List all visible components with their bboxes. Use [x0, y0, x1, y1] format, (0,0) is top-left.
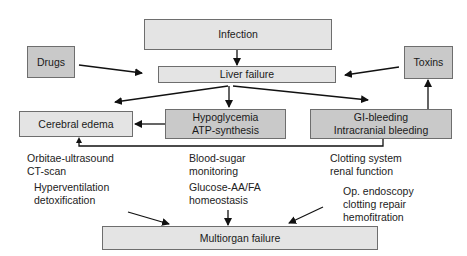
- annotation-line: monitoring: [189, 165, 246, 178]
- annotation-treatment-cerebral: Hyperventilation detoxification: [34, 181, 109, 207]
- annotation-line: Hyperventilation: [34, 181, 109, 194]
- node-hypoglycemia-line2: ATP-synthesis: [192, 124, 259, 137]
- node-hypoglycemia-line1: Hypoglycemia: [193, 111, 259, 124]
- annotation-line: Orbitae-ultrasound: [27, 152, 114, 165]
- node-drugs-label: Drugs: [37, 56, 65, 69]
- annotation-treatment-bleeding: Op. endoscopy clotting repair hemofitrat…: [343, 185, 414, 224]
- annotation-monitoring-cerebral: Orbitae-ultrasound CT-scan: [27, 152, 114, 178]
- annotation-line: homeostasis: [189, 194, 261, 207]
- arrow-liver-gibleeding: [233, 86, 368, 100]
- annotation-line: detoxification: [34, 194, 109, 207]
- node-liver-failure: Liver failure: [158, 66, 336, 83]
- annotation-monitoring-hypoglycemia: Blood-sugar monitoring: [189, 152, 246, 178]
- annotation-monitoring-bleeding: Clotting system renal function: [330, 152, 402, 178]
- annotation-line: Clotting system: [330, 152, 402, 165]
- node-hypoglycemia: Hypoglycemia ATP-synthesis: [165, 109, 286, 139]
- node-toxins-label: Toxins: [414, 56, 444, 69]
- node-toxins: Toxins: [404, 46, 453, 79]
- annotation-treatment-hypoglycemia: Glucose-AA/FA homeostasis: [189, 181, 261, 207]
- arrow-liver-cerebral: [115, 86, 228, 102]
- annotation-line: Op. endoscopy: [343, 185, 414, 198]
- node-gi-bleeding-line2: Intracranial bleeding: [334, 124, 429, 137]
- arrow-drugs-liver: [79, 65, 142, 73]
- node-infection-label: Infection: [218, 28, 258, 41]
- annotation-line: Blood-sugar: [189, 152, 246, 165]
- node-gi-bleeding-line1: GI-bleeding: [354, 111, 408, 124]
- annotation-line: CT-scan: [27, 165, 114, 178]
- arrow-cerebral-treatment-multiorgan: [128, 212, 169, 224]
- node-cerebral-edema-label: Cerebral edema: [38, 118, 113, 131]
- node-multiorgan-failure-label: Multiorgan failure: [200, 232, 281, 245]
- node-infection: Infection: [144, 19, 332, 50]
- annotation-line: clotting repair: [343, 198, 414, 211]
- annotation-line: renal function: [330, 165, 402, 178]
- annotation-line: Glucose-AA/FA: [189, 181, 261, 194]
- arrow-bleeding-treatment-multiorgan: [289, 207, 323, 223]
- node-multiorgan-failure: Multiorgan failure: [102, 226, 378, 250]
- annotation-line: hemofitration: [343, 211, 414, 224]
- node-liver-failure-label: Liver failure: [220, 68, 274, 81]
- arrow-gibleeding-cerebral: [79, 138, 383, 146]
- node-drugs: Drugs: [27, 46, 75, 78]
- node-gi-bleeding: GI-bleeding Intracranial bleeding: [310, 109, 452, 139]
- arrow-toxins-liver: [345, 67, 399, 75]
- node-cerebral-edema: Cerebral edema: [19, 111, 133, 137]
